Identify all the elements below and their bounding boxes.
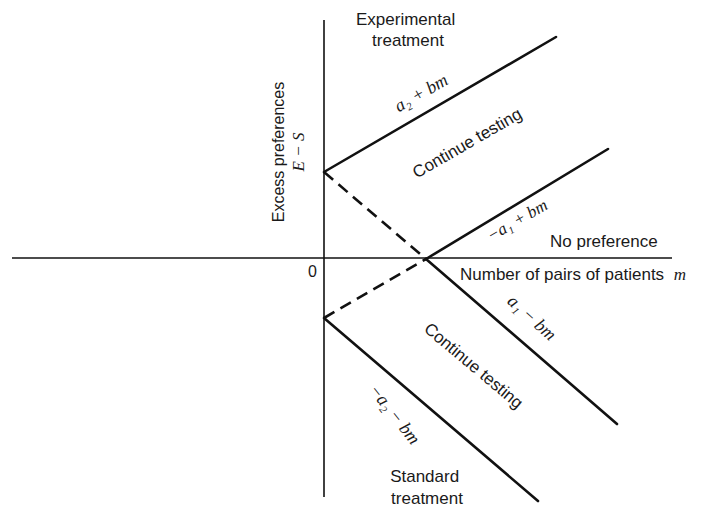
origin-label: 0 [308,263,317,280]
experimental-treatment-label: Experimental treatment [356,10,460,50]
y-axis-label: Excess preferences E − S [270,82,308,223]
formula-a1-minus-bm: a₁ − bm [504,291,561,345]
formula-a2-plus-bm: a₂ + bm [391,70,452,117]
no-preference-label: No preference [550,232,658,251]
standard-treatment-label: Standard treatment [390,467,464,508]
x-axis-label: Number of pairs of patients m [460,265,686,284]
dashed-extension-upper [324,172,426,259]
svg-text:Excess preferences: Excess preferences [270,82,287,223]
sequential-test-diagram: Experimental treatment Standard treatmen… [0,0,726,514]
svg-text:E − S: E − S [289,132,308,172]
continue-testing-upper: Continue testing [409,104,525,182]
dashed-extension-lower [324,259,426,318]
formula-neg-a2-minus-bm: −a₂ − bm [365,380,424,448]
